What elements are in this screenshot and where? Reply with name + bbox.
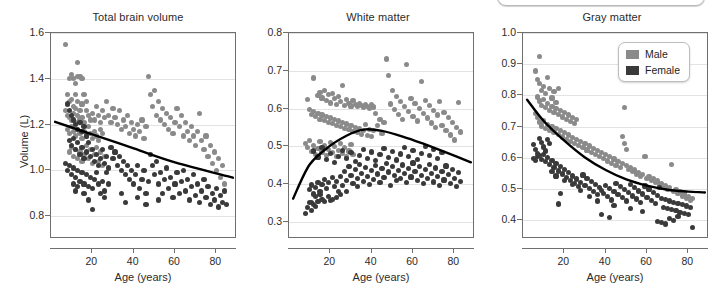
y-tick-label: 0.9 [488,57,516,69]
x-axis-line [522,248,708,249]
y-tick-mark [45,169,50,170]
y-tick-label: 0.4 [488,213,516,225]
chart-legend: MaleFemale [618,42,690,82]
top-cutoff-element [497,0,705,6]
y-tick-mark [283,32,288,33]
x-tick-mark [133,248,134,253]
y-tick-mark [517,126,522,127]
y-tick-label: 0.5 [488,182,516,194]
panel-title: White matter [278,11,478,23]
legend-item-male[interactable]: Male [626,48,680,60]
x-tick-mark [412,248,413,253]
y-tick-mark [45,124,50,125]
trend-line [51,33,236,238]
x-tick-mark [453,248,454,253]
y-tick-label: 0.7 [488,120,516,132]
y-tick-mark [283,108,288,109]
y-axis-label: Volume (L) [18,115,30,168]
x-tick-mark [91,248,92,253]
x-tick-mark [563,248,564,253]
y-tick-label: 0.8 [488,88,516,100]
x-axis-label: Age (years) [587,271,644,283]
x-tick-mark [174,248,175,253]
y-tick-mark [517,219,522,220]
y-tick-label: 1.6 [16,26,44,38]
trend-line [289,33,474,238]
y-tick-label: 1.4 [16,72,44,84]
x-tick-label: 60 [406,255,418,267]
legend-label: Male [645,48,668,60]
x-tick-mark [605,248,606,253]
y-tick-mark [517,63,522,64]
legend-item-female[interactable]: Female [626,64,680,76]
y-tick-mark [517,94,522,95]
legend-swatch-female [626,66,639,75]
x-tick-label: 40 [599,255,611,267]
x-tick-label: 60 [168,255,180,267]
x-axis-line [50,248,236,249]
y-tick-label: 0.8 [254,26,282,38]
y-tick-label: 0.4 [254,177,282,189]
y-tick-label: 0.5 [254,139,282,151]
x-tick-label: 20 [323,255,335,267]
x-tick-label: 40 [365,255,377,267]
y-tick-mark [45,78,50,79]
x-tick-label: 20 [85,255,97,267]
panel-title: Total brain volume [38,11,238,23]
y-tick-mark [283,70,288,71]
legend-swatch-male [626,50,639,59]
plot-area [50,32,236,238]
y-tick-label: 0.6 [488,151,516,163]
x-tick-label: 80 [209,255,221,267]
y-tick-mark [517,188,522,189]
x-tick-mark [215,248,216,253]
x-tick-label: 60 [640,255,652,267]
y-tick-label: 0.7 [254,64,282,76]
y-tick-label: 0.6 [254,102,282,114]
legend-label: Female [645,64,680,76]
y-tick-label: 0.8 [16,209,44,221]
x-axis-label: Age (years) [115,271,172,283]
x-tick-mark [687,248,688,253]
x-tick-label: 80 [681,255,693,267]
plot-area [288,32,474,238]
y-tick-label: 0.3 [254,215,282,227]
figure-canvas: Total brain volume0.81.01.21.41.62040608… [0,0,720,292]
x-tick-label: 20 [557,255,569,267]
x-tick-label: 40 [127,255,139,267]
x-axis-label: Age (years) [353,271,410,283]
y-tick-mark [517,157,522,158]
y-tick-mark [283,183,288,184]
y-tick-mark [283,221,288,222]
x-axis-line [288,248,474,249]
y-tick-mark [45,215,50,216]
y-tick-mark [283,145,288,146]
x-tick-label: 80 [447,255,459,267]
x-tick-mark [371,248,372,253]
y-tick-mark [45,32,50,33]
panel-title: Gray matter [512,11,712,23]
x-tick-mark [646,248,647,253]
x-tick-mark [329,248,330,253]
y-tick-label: 1.0 [488,26,516,38]
y-tick-mark [517,32,522,33]
